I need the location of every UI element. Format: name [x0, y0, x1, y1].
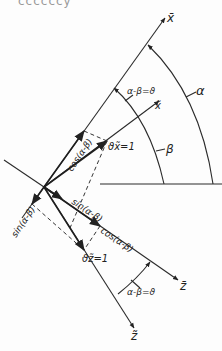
label-alpha: α — [196, 83, 205, 98]
label-cos-lower: cos(α-β) — [99, 225, 135, 254]
sin-vector-left — [32, 187, 44, 204]
label-alpha-minus-beta-bottom: α-β=ϑ — [127, 287, 155, 297]
label-beta: β — [165, 142, 174, 156]
inner-arc-tick-beta — [156, 149, 165, 151]
label-v-z: ϑz̃=1 — [82, 253, 108, 264]
dashed-lower-2 — [84, 226, 100, 250]
label-z-bar: z̄ — [179, 279, 187, 293]
rotation-diagram: x̄ α α-β=ϑ x̃ β ϑx̃=1 cos(α-β) sin(α-β) … — [0, 0, 222, 351]
label-sin-lower: sin(α-β) — [70, 196, 104, 224]
perpendicular-line — [4, 160, 44, 187]
label-z-tilde: z̃ — [130, 329, 138, 343]
label-alpha-minus-beta-top: α-β=ϑ — [127, 86, 155, 96]
label-sin-left: sin(α-β) — [9, 205, 37, 239]
diagram-canvas: ccccccy — [0, 0, 222, 351]
label-cos-upper: cos(α-β) — [65, 137, 94, 173]
alpha-arc — [148, 45, 213, 184]
dashed-lower-1 — [32, 204, 84, 250]
unit-vector-z-tilde — [44, 187, 84, 250]
label-x-tilde: x̃ — [154, 100, 161, 111]
label-v-x: ϑx̃=1 — [108, 141, 135, 152]
alpha-arc-tick — [186, 92, 196, 97]
label-x-bar: x̄ — [166, 11, 175, 25]
